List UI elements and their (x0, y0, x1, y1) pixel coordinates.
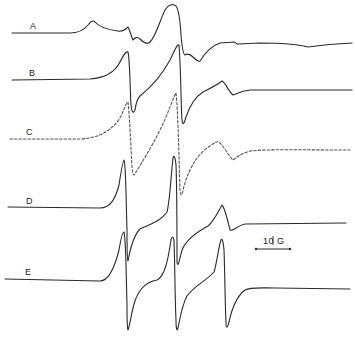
trace-d (8, 156, 346, 264)
epr-spectra-figure: A B C D E 10 G (0, 0, 355, 338)
spectra-plot (0, 0, 355, 338)
trace-label-b: B (29, 69, 35, 78)
trace-label-e: E (25, 268, 31, 277)
trace-label-a: A (30, 22, 36, 31)
trace-label-d: D (26, 197, 33, 206)
trace-label-c: C (26, 128, 33, 137)
trace-b (12, 45, 352, 124)
scale-bar-label: 10 G (263, 237, 285, 246)
trace-a (12, 5, 352, 62)
trace-c (10, 93, 350, 195)
